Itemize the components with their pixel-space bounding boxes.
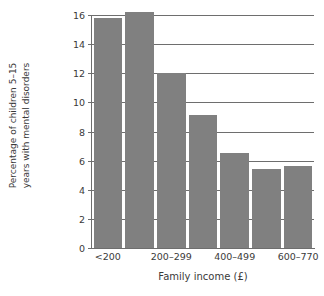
x-axis-tick-labels: <200200–299400–499600–770 <box>92 251 314 267</box>
bar <box>220 153 249 248</box>
bar-chart-figure: Percentage of children 5–15 years with m… <box>0 0 324 296</box>
bar <box>252 169 281 248</box>
x-axis-line <box>91 248 315 249</box>
x-axis-tick-label: 400–499 <box>214 251 255 262</box>
y-axis-tick-label: 6 <box>79 155 85 166</box>
y-axis-title-line2: years with mental disorders <box>20 62 33 188</box>
bar <box>157 73 186 248</box>
y-axis-tick-label: 10 <box>73 97 85 108</box>
bar-series <box>92 15 314 248</box>
x-axis-tick-label: 600–770 <box>278 251 319 262</box>
y-axis-tick-labels: 0246810121416 <box>38 0 88 260</box>
bar <box>189 115 218 248</box>
bar <box>125 12 154 248</box>
x-axis-title: Family income (£) <box>92 271 314 282</box>
y-axis-tick-label: 0 <box>79 243 85 254</box>
y-axis-tick-label: 12 <box>73 68 85 79</box>
y-axis-title: Percentage of children 5–15 years with m… <box>0 0 40 250</box>
bar <box>284 166 313 248</box>
y-axis-tick <box>88 248 92 249</box>
y-axis-title-line1: Percentage of children 5–15 <box>8 62 21 188</box>
y-axis-tick-label: 2 <box>79 213 85 224</box>
bar <box>94 18 123 248</box>
plot-area <box>92 15 314 248</box>
y-axis-tick-label: 8 <box>79 126 85 137</box>
x-axis-tick-label: 200–299 <box>151 251 192 262</box>
y-axis-tick-label: 16 <box>73 10 85 21</box>
y-axis-tick-label: 4 <box>79 184 85 195</box>
y-axis-tick-label: 14 <box>73 39 85 50</box>
x-axis-tick-label: <200 <box>95 251 121 262</box>
